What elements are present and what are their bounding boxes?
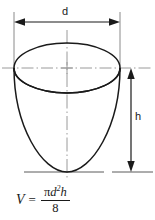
height-arrowhead-bottom [127,161,134,172]
figure-root: d h V = πd2h 8 [0,0,155,220]
formula-denominator: 8 [49,201,61,215]
formula-equals: = [29,192,36,208]
diameter-arrowhead-right [109,18,120,26]
formula-h: h [60,185,66,199]
height-label: h [135,111,141,122]
formula-variable: V [16,192,25,208]
height-arrowhead-top [127,68,134,79]
diameter-label: d [62,6,68,17]
formula-fraction: πd2h 8 [41,186,70,214]
volume-formula: V = πd2h 8 [16,186,70,214]
formula-numerator: πd2h [41,186,70,200]
diameter-arrowhead-left [14,18,25,26]
